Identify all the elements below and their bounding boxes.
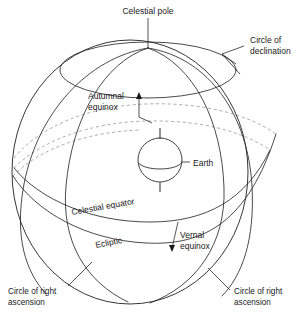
autumnal-equinox-leader-line — [139, 99, 152, 123]
celestial-sphere-figure: Celestial pole Circle of declination Aut… — [0, 0, 303, 327]
vernal-equinox-arrowhead — [169, 245, 175, 252]
circle-of-right-ascension-left-arc — [65, 48, 148, 302]
circle-of-declination-label-line1: Circle of — [250, 35, 282, 45]
meridians-group — [20, 48, 252, 303]
circle-of-right-ascension-left-label-line1: Circle of right — [8, 287, 57, 296]
celestial-equator-group — [14, 150, 270, 222]
earth-group — [138, 128, 182, 192]
ecliptic-front-arc — [13, 134, 276, 243]
celestial-pole-label: Celestial pole — [122, 6, 173, 16]
circle-of-declination-leader-main — [222, 46, 244, 54]
meridian-right-limb-arc — [148, 48, 252, 296]
autumnal-equinox-label-line1: Autumnal — [88, 91, 124, 101]
celestial-equator-label: Celestial equator — [71, 196, 136, 217]
circle-of-declination-group — [60, 42, 236, 98]
circle-of-right-ascension-right-label-line1: Circle of right — [234, 287, 283, 296]
vernal-equinox-leader-line — [172, 222, 178, 248]
ecliptic-group — [13, 134, 276, 243]
autumnal-equinox-label-line2: equinox — [88, 102, 119, 112]
circle-of-right-ascension-left-label-line2: ascension — [8, 298, 45, 307]
circle-of-right-ascension-left-leader — [68, 262, 92, 286]
circle-of-right-ascension-right-leader — [208, 268, 230, 290]
circle-of-right-ascension-right-arc — [148, 48, 224, 303]
celestial-sphere-diagram: Celestial pole Circle of declination Aut… — [0, 0, 303, 327]
earth-equator-arc — [138, 163, 181, 169]
ecliptic-label: Ecliptic — [94, 235, 123, 250]
autumnal-equinox-arrowhead — [136, 92, 142, 99]
circle-of-declination-label-line2: declination — [250, 46, 291, 56]
vernal-equinox-label-line2: equinox — [180, 241, 211, 251]
celestial-sphere-outline — [12, 40, 248, 304]
earth-sphere — [138, 138, 182, 182]
circle-of-declination-leader-branch-up — [222, 54, 236, 64]
vernal-equinox-label-line1: Vernal — [180, 230, 204, 240]
celestial-equator-front-arc — [14, 150, 270, 222]
earth-label: Earth — [193, 158, 214, 168]
circle-of-right-ascension-right-label-line2: ascension — [234, 298, 271, 307]
celestial-sphere-outline-group — [12, 40, 248, 304]
circle-of-declination-ellipse — [60, 42, 236, 98]
leader-lines-group — [68, 46, 244, 290]
celestial-equator-back-arc — [14, 121, 270, 168]
circle-of-declination-leader-branch-down — [222, 54, 240, 74]
